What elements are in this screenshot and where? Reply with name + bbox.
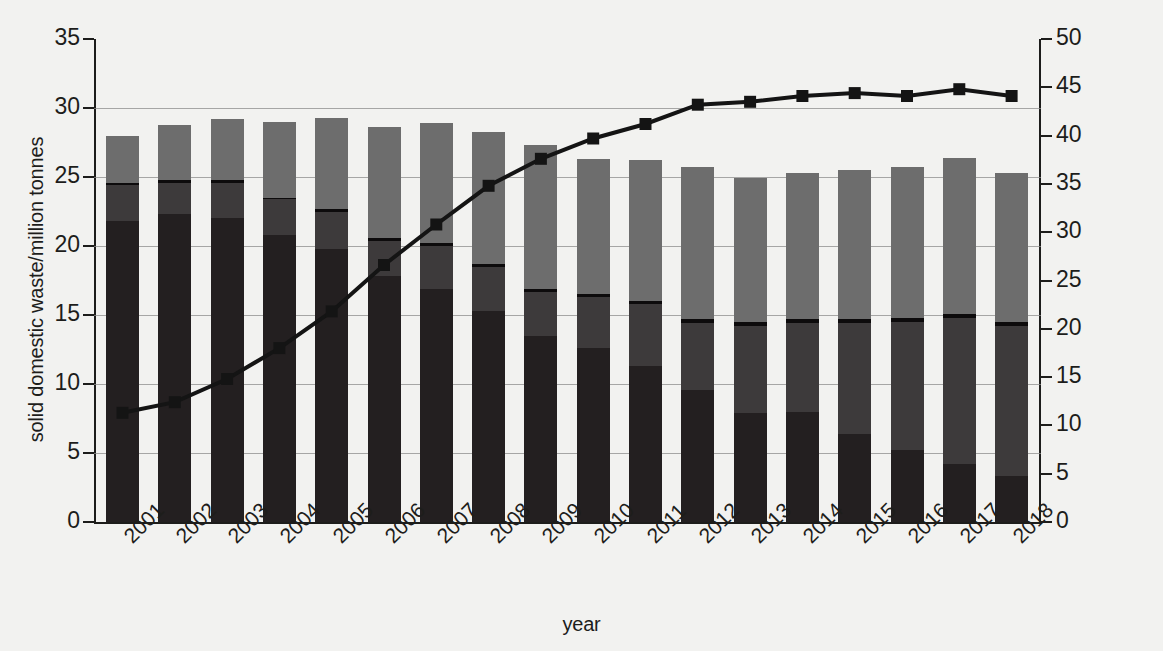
y-axis-left-tick	[83, 176, 94, 178]
y-axis-right-tick	[1041, 328, 1052, 330]
y-axis-left-tick-label: 15	[0, 302, 80, 325]
bar-segment-recycling	[891, 167, 924, 317]
bar-segment-incineration	[420, 246, 453, 289]
bar-segment-recycling	[315, 118, 348, 209]
bar-segment-landfill	[106, 221, 139, 522]
bar-segment-incineration	[158, 183, 191, 215]
bar-segment-recycling	[786, 173, 819, 319]
bar-segment-landfill	[420, 289, 453, 522]
y-axis-left-tick-label: 25	[0, 164, 80, 187]
bar-segment-incineration	[472, 267, 505, 311]
bar-segment-recycling	[211, 119, 244, 180]
y-axis-right-tick-label: 30	[1056, 219, 1082, 242]
bar-2013	[734, 178, 767, 522]
bar-segment-incineration	[368, 241, 401, 277]
y-axis-left-tick	[83, 245, 94, 247]
y-axis-left-tick	[83, 452, 94, 454]
plot-area	[94, 39, 1041, 524]
bar-2017	[943, 158, 976, 522]
bar-segment-landfill	[734, 413, 767, 522]
bar-segment-landfill	[786, 412, 819, 522]
y-axis-left-tick	[83, 107, 94, 109]
bar-segment-incineration	[263, 199, 296, 235]
y-axis-right-tick-label: 40	[1056, 123, 1082, 146]
bar-segment-incineration	[943, 318, 976, 464]
bar-2016	[891, 167, 924, 522]
y-axis-right-tick	[1041, 86, 1052, 88]
bar-segment-incineration	[681, 323, 714, 389]
bar-segment-landfill	[368, 276, 401, 522]
y-axis-right-tick	[1041, 135, 1052, 137]
bar-segment-incineration	[995, 326, 1028, 476]
x-axis-title: year	[0, 613, 1163, 636]
bar-segment-recycling	[629, 160, 662, 301]
bar-segment-incineration	[786, 323, 819, 411]
bar-segment-landfill	[524, 336, 557, 522]
bar-segment-recycling	[420, 123, 453, 243]
bar-2004	[263, 122, 296, 522]
bar-segment-recycling	[106, 136, 139, 183]
bar-segment-incineration	[891, 322, 924, 450]
y-axis-left-tick-label: 20	[0, 233, 80, 256]
y-axis-right-tick-label: 35	[1056, 171, 1082, 194]
y-axis-right-tick-label: 15	[1056, 364, 1082, 387]
bar-segment-recycling	[158, 125, 191, 180]
y-axis-left-tick-label: 30	[0, 95, 80, 118]
bar-2014	[786, 173, 819, 522]
bar-segment-landfill	[681, 390, 714, 522]
bar-segment-landfill	[629, 366, 662, 522]
bar-2018	[995, 173, 1028, 522]
y-axis-right-tick-label: 10	[1056, 412, 1082, 435]
y-axis-right-tick	[1041, 280, 1052, 282]
y-axis-left-tick	[83, 521, 94, 523]
y-axis-left-tick-label: 0	[0, 509, 80, 532]
bar-segment-landfill	[315, 249, 348, 522]
bar-2009	[524, 145, 557, 522]
bar-segment-incineration	[838, 323, 871, 433]
bar-segment-recycling	[577, 159, 610, 294]
bar-segment-recycling	[263, 122, 296, 198]
y-axis-right-tick-label: 45	[1056, 74, 1082, 97]
bar-2007	[420, 123, 453, 522]
bar-2005	[315, 118, 348, 522]
bar-segment-recycling	[472, 132, 505, 264]
y-axis-left-tick	[83, 314, 94, 316]
bar-segment-recycling	[838, 170, 871, 319]
x-axis-tick-labels: 2001200220032004200520062007200820092010…	[94, 527, 1041, 607]
bar-2012	[681, 167, 714, 522]
y-axis-right-tick	[1041, 183, 1052, 185]
bar-2010	[577, 159, 610, 522]
bar-segment-landfill	[263, 235, 296, 522]
y-axis-left-tick-label: 10	[0, 371, 80, 394]
bar-2002	[158, 125, 191, 522]
bar-2011	[629, 160, 662, 522]
bar-2015	[838, 170, 871, 522]
bar-2008	[472, 132, 505, 523]
bar-segment-landfill	[472, 311, 505, 522]
bar-segment-incineration	[106, 185, 139, 221]
bar-segment-recycling	[524, 145, 557, 289]
y-axis-right-tick	[1041, 424, 1052, 426]
y-axis-right-tick-label: 20	[1056, 316, 1082, 339]
bar-segment-recycling	[995, 173, 1028, 322]
bar-segment-incineration	[315, 212, 348, 249]
y-axis-right-tick-label: 25	[1056, 268, 1082, 291]
y-axis-right-tick	[1041, 376, 1052, 378]
y-axis-right-tick	[1041, 473, 1052, 475]
chart-figure: solid domestic waste/million tonnes recy…	[0, 0, 1163, 651]
bar-2006	[368, 127, 401, 522]
y-axis-right-tick	[1041, 231, 1052, 233]
y-axis-left-tick	[83, 383, 94, 385]
bar-segment-landfill	[577, 348, 610, 522]
bar-segment-incineration	[211, 183, 244, 219]
bar-segment-landfill	[211, 218, 244, 522]
bar-segment-recycling	[368, 127, 401, 237]
bar-segment-recycling	[734, 178, 767, 322]
y-axis-right-tick	[1041, 38, 1052, 40]
bar-segment-incineration	[629, 304, 662, 366]
y-axis-right-tick-label: 0	[1056, 509, 1069, 532]
y-axis-left-tick-label: 35	[0, 26, 80, 49]
bar-segment-incineration	[577, 297, 610, 348]
bar-segment-recycling	[943, 158, 976, 314]
bar-segment-landfill	[158, 214, 191, 522]
